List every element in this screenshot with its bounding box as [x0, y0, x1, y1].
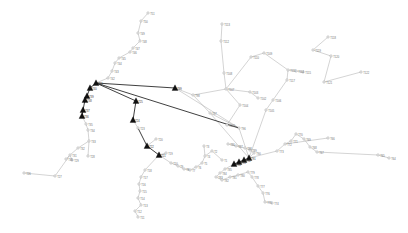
graph-node[interactable]	[88, 140, 90, 142]
network-graph-svg[interactable]: T51T50T49T48T47T46T45T44T43T42T41T40T39T…	[0, 0, 408, 233]
graph-node[interactable]	[144, 169, 146, 171]
graph-node-label: T38	[87, 99, 92, 103]
graph-node[interactable]	[388, 157, 390, 159]
graph-node-label: T81	[232, 176, 237, 180]
graph-edge	[313, 37, 328, 50]
graph-node[interactable]	[295, 133, 297, 135]
graph-node[interactable]	[284, 143, 286, 145]
graph-node[interactable]	[107, 77, 109, 79]
graph-node[interactable]	[129, 51, 131, 53]
graph-node[interactable]	[330, 55, 332, 57]
graph-node[interactable]	[132, 47, 134, 49]
graph-node[interactable]	[140, 176, 142, 178]
graph-node[interactable]	[85, 123, 87, 125]
graph-node[interactable]	[139, 190, 141, 192]
graph-node[interactable]	[250, 56, 252, 58]
graph-node-label: T22	[149, 145, 154, 149]
graph-node[interactable]	[118, 57, 120, 59]
graph-node[interactable]	[137, 127, 139, 129]
graph-node[interactable]	[257, 97, 259, 99]
graph-node[interactable]	[225, 88, 227, 90]
graph-node[interactable]	[276, 150, 278, 152]
graph-node[interactable]	[137, 32, 139, 34]
graph-node[interactable]	[54, 175, 56, 177]
graph-node[interactable]	[138, 183, 140, 185]
graph-node[interactable]	[147, 12, 149, 14]
graph-node[interactable]	[203, 145, 205, 147]
graph-node[interactable]	[23, 172, 25, 174]
graph-node[interactable]	[170, 162, 172, 164]
graph-node[interactable]	[223, 72, 225, 74]
graph-node-label: T118	[330, 36, 336, 40]
graph-node[interactable]	[192, 94, 194, 96]
graph-node-label: T88	[247, 147, 252, 151]
graph-node[interactable]	[220, 40, 222, 42]
graph-node[interactable]	[211, 150, 213, 152]
graph-node[interactable]	[137, 197, 139, 199]
graph-edge	[324, 56, 331, 82]
graph-node[interactable]	[221, 159, 223, 161]
graph-node[interactable]	[238, 127, 240, 129]
graph-edge	[317, 152, 378, 155]
graph-node[interactable]	[309, 146, 311, 148]
graph-node[interactable]	[239, 104, 241, 106]
graph-node[interactable]	[111, 70, 113, 72]
graph-node-label: T103	[252, 91, 258, 95]
graph-node[interactable]	[87, 155, 89, 157]
graph-node-label: T27	[57, 175, 62, 179]
graph-node[interactable]	[262, 192, 264, 194]
graph-node[interactable]	[249, 91, 251, 93]
graph-node[interactable]	[77, 147, 79, 149]
graph-node[interactable]	[215, 176, 217, 178]
graph-node[interactable]	[226, 124, 228, 126]
graph-node[interactable]	[221, 23, 223, 25]
graph-node[interactable]	[139, 40, 141, 42]
graph-node[interactable]	[263, 52, 265, 54]
graph-node[interactable]	[327, 36, 329, 38]
graph-node-label: T78	[254, 176, 259, 180]
graph-node[interactable]	[290, 140, 292, 142]
graph-node[interactable]	[87, 129, 89, 131]
graph-node[interactable]	[219, 172, 221, 174]
graph-node[interactable]	[140, 204, 142, 206]
graph-node[interactable]	[137, 216, 139, 218]
graph-node[interactable]	[316, 151, 318, 153]
graph-node[interactable]	[65, 158, 67, 160]
graph-node[interactable]	[265, 109, 267, 111]
graph-node[interactable]	[257, 185, 259, 187]
graph-node[interactable]	[204, 155, 206, 157]
graph-node[interactable]	[251, 176, 253, 178]
graph-node[interactable]	[247, 171, 249, 173]
graph-node[interactable]	[237, 174, 239, 176]
graph-node[interactable]	[272, 99, 274, 101]
graph-node[interactable]	[286, 79, 288, 81]
graph-node[interactable]	[134, 210, 136, 212]
graph-node[interactable]	[360, 71, 362, 73]
network-graph-canvas[interactable]: T51T50T49T48T47T46T45T44T43T42T41T40T39T…	[0, 0, 408, 233]
graph-node[interactable]	[227, 143, 229, 145]
graph-node[interactable]	[323, 81, 325, 83]
graph-node[interactable]	[195, 166, 197, 168]
graph-node-label: T97	[212, 112, 217, 116]
graph-node[interactable]	[312, 49, 314, 51]
graph-node[interactable]	[264, 201, 266, 203]
graph-node[interactable]	[229, 176, 231, 178]
nodes-layer	[23, 12, 390, 218]
graph-node[interactable]	[140, 20, 142, 22]
graph-node[interactable]	[201, 162, 203, 164]
graph-node-label: T6	[198, 166, 202, 170]
graph-node-label: T17	[143, 176, 148, 180]
graph-node[interactable]	[224, 168, 226, 170]
graph-node[interactable]	[69, 154, 71, 156]
graph-node-label: T114	[298, 70, 304, 74]
graph-node[interactable]	[235, 145, 237, 147]
graph-node[interactable]	[287, 69, 289, 71]
graph-node[interactable]	[155, 138, 157, 140]
graph-node[interactable]	[327, 137, 329, 139]
graph-node[interactable]	[303, 138, 305, 140]
graph-node[interactable]	[209, 112, 211, 114]
graph-node[interactable]	[377, 154, 379, 156]
graph-node[interactable]	[244, 147, 246, 149]
graph-node-label: T69	[306, 138, 311, 142]
graph-node[interactable]	[114, 62, 116, 64]
